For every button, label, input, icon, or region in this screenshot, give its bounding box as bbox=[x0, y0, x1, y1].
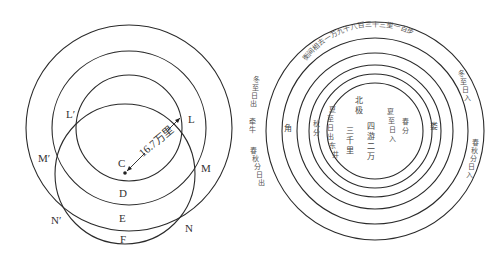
xiazhi-richu-dongjing-label: 夏 至 日 出 东 井 bbox=[327, 106, 339, 159]
point-n: N bbox=[185, 222, 193, 234]
dongzhi-riru-label: 冬 至 日 入 bbox=[458, 69, 471, 102]
sanqianli-label: 三 千 里 bbox=[346, 126, 354, 155]
beiji-label: 北 极 bbox=[355, 96, 363, 115]
svg-text:至: 至 bbox=[252, 84, 259, 92]
svg-text:冬: 冬 bbox=[458, 69, 465, 78]
svg-text:牵: 牵 bbox=[249, 117, 256, 126]
outer-circle bbox=[26, 25, 232, 231]
svg-text:游: 游 bbox=[367, 131, 375, 141]
point-m-prime: M′ bbox=[38, 152, 50, 164]
chunfen-label: 春 分 bbox=[402, 117, 409, 135]
svg-text:夏: 夏 bbox=[329, 106, 336, 114]
right-diagram: 衡间相去一万九千八百三十三里一百步 北 极 三 千 里 四 游 二 万 夏 至 … bbox=[249, 20, 484, 240]
ring-6 bbox=[282, 38, 468, 224]
svg-text:分: 分 bbox=[254, 162, 261, 171]
svg-text:至: 至 bbox=[327, 115, 334, 123]
svg-text:万: 万 bbox=[367, 152, 375, 161]
svg-text:至: 至 bbox=[388, 117, 395, 125]
left-diagram: 16.7万里 L′ L M′ M C D N′ E N F bbox=[26, 25, 232, 245]
svg-text:极: 极 bbox=[355, 105, 363, 115]
svg-text:春: 春 bbox=[250, 146, 257, 155]
center-point-c bbox=[123, 171, 127, 175]
point-m: M bbox=[201, 162, 211, 174]
svg-text:二: 二 bbox=[367, 142, 375, 151]
svg-text:入: 入 bbox=[466, 171, 473, 179]
svg-text:冬: 冬 bbox=[253, 75, 260, 84]
svg-text:春: 春 bbox=[402, 117, 409, 126]
svg-text:井: 井 bbox=[332, 150, 339, 159]
siyouerwan-label: 四 游 二 万 bbox=[367, 122, 375, 161]
lou-label: 娄 bbox=[430, 121, 438, 131]
svg-text:里: 里 bbox=[346, 146, 354, 155]
diagram-canvas: 16.7万里 L′ L M′ M C D N′ E N F 衡间相去一万九千八百… bbox=[0, 0, 502, 258]
point-l-prime: L′ bbox=[66, 108, 75, 120]
svg-text:出: 出 bbox=[258, 178, 265, 187]
svg-text:三: 三 bbox=[346, 126, 354, 135]
svg-text:春: 春 bbox=[472, 138, 479, 147]
point-c: C bbox=[118, 157, 125, 169]
middle-circle bbox=[52, 51, 206, 205]
svg-text:入: 入 bbox=[389, 135, 396, 143]
svg-text:日: 日 bbox=[251, 92, 258, 100]
qianniu-label: 牵 牛 bbox=[249, 117, 256, 134]
ring-5 bbox=[297, 53, 453, 209]
svg-text:出: 出 bbox=[250, 99, 257, 108]
qiufen-label: 秋 分 bbox=[313, 119, 320, 137]
svg-text:千: 千 bbox=[346, 135, 354, 145]
point-n-prime: N′ bbox=[51, 214, 61, 226]
radius-label: 16.7万里 bbox=[136, 123, 175, 159]
svg-text:秋: 秋 bbox=[471, 146, 478, 155]
point-l: L bbox=[188, 113, 195, 125]
point-e: E bbox=[119, 212, 126, 224]
svg-text:分: 分 bbox=[313, 128, 320, 137]
svg-text:出: 出 bbox=[327, 132, 334, 141]
svg-text:夏: 夏 bbox=[387, 108, 394, 116]
dongzhi-richu-label: 冬 至 日 出 bbox=[250, 75, 260, 108]
svg-text:东: 东 bbox=[329, 141, 336, 150]
point-f: F bbox=[120, 233, 126, 245]
ring-7 bbox=[266, 22, 484, 240]
svg-text:日: 日 bbox=[389, 126, 396, 134]
ring-3 bbox=[318, 74, 432, 188]
svg-text:日: 日 bbox=[327, 124, 334, 132]
svg-text:北: 北 bbox=[355, 96, 363, 105]
svg-text:日: 日 bbox=[468, 163, 475, 171]
jiao-label: 角 bbox=[284, 123, 292, 133]
xiazhi-riru-label: 夏 至 日 入 bbox=[387, 108, 396, 143]
svg-text:日: 日 bbox=[256, 171, 263, 179]
svg-text:日: 日 bbox=[462, 86, 469, 94]
svg-text:分: 分 bbox=[470, 154, 477, 163]
svg-text:秋: 秋 bbox=[313, 119, 320, 128]
svg-text:牛: 牛 bbox=[249, 125, 256, 134]
svg-text:入: 入 bbox=[464, 94, 471, 102]
svg-text:至: 至 bbox=[460, 78, 467, 86]
svg-text:四: 四 bbox=[367, 122, 375, 131]
chunqiufen-riru-label: 春 秋 分 日 入 bbox=[466, 138, 479, 179]
point-d: D bbox=[119, 187, 127, 199]
svg-text:秋: 秋 bbox=[252, 154, 259, 163]
chunqiufen-richu-label: 春 秋 分 日 出 bbox=[250, 146, 265, 187]
svg-text:分: 分 bbox=[402, 126, 409, 135]
